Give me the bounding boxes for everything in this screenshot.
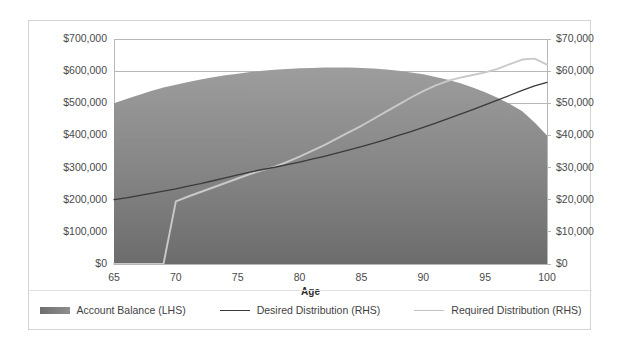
x-axis-tick-label: 70	[156, 271, 196, 283]
y-axis-right-tick-label: $10,000	[556, 225, 594, 237]
area-account-balance	[114, 68, 547, 264]
x-axis-tick-label: 80	[280, 271, 320, 283]
x-axis-tick-label: 90	[403, 271, 443, 283]
chart-canvas	[29, 21, 592, 291]
plot-region: $0$100,000$200,000$300,000$400,000$500,0…	[29, 21, 592, 291]
chart-container: $0$100,000$200,000$300,000$400,000$500,0…	[28, 20, 591, 330]
y-axis-right-tick-label: $60,000	[556, 64, 594, 76]
y-axis-left-tick-label: $600,000	[63, 64, 107, 76]
x-axis-tick-label: 85	[341, 271, 381, 283]
area-swatch-icon	[40, 307, 70, 314]
y-axis-left-tick-label: $100,000	[63, 225, 107, 237]
legend-label-desired-distribution: Desired Distribution (RHS)	[257, 304, 381, 316]
x-axis-tick-label: 75	[218, 271, 258, 283]
y-axis-right-tick-label: $40,000	[556, 128, 594, 140]
y-axis-left-tick-label: $0	[95, 257, 107, 269]
y-axis-right-tick-label: $50,000	[556, 96, 594, 108]
series-account-balance	[114, 68, 547, 264]
line-light-swatch-icon	[414, 310, 444, 311]
y-axis-right-tick-label: $0	[556, 257, 568, 269]
x-axis-tick-label: 65	[94, 271, 134, 283]
line-dark-swatch-icon	[220, 310, 250, 311]
y-axis-right-tick-label: $20,000	[556, 193, 594, 205]
y-axis-left-tick-label: $300,000	[63, 161, 107, 173]
y-axis-right-tick-label: $70,000	[556, 32, 594, 44]
x-axis-tick-label: 95	[465, 271, 505, 283]
legend-item-required-distribution[interactable]: Required Distribution (RHS)	[414, 304, 581, 316]
x-axis-tick-label: 100	[527, 271, 567, 283]
y-axis-right-tick-label: $30,000	[556, 161, 594, 173]
y-axis-left-tick-label: $700,000	[63, 32, 107, 44]
y-axis-left-tick-label: $500,000	[63, 96, 107, 108]
legend-item-account-balance[interactable]: Account Balance (LHS)	[40, 304, 186, 316]
y-axis-left-tick-label: $400,000	[63, 128, 107, 140]
y-axis-left-tick-label: $200,000	[63, 193, 107, 205]
chart-legend: Account Balance (LHS) Desired Distributi…	[29, 290, 592, 329]
legend-label-account-balance: Account Balance (LHS)	[77, 304, 186, 316]
legend-item-desired-distribution[interactable]: Desired Distribution (RHS)	[220, 304, 381, 316]
legend-label-required-distribution: Required Distribution (RHS)	[451, 304, 581, 316]
